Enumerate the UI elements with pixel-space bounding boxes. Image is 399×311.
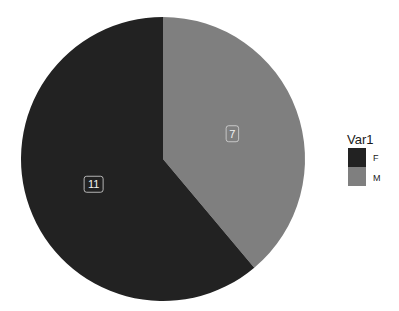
legend-label-m: M xyxy=(373,173,381,183)
svg-text:7: 7 xyxy=(229,128,235,140)
svg-text:11: 11 xyxy=(88,178,99,190)
legend-key-f xyxy=(348,148,366,167)
legend-title: Var1 xyxy=(347,132,374,147)
slice-label-m: 7 xyxy=(226,126,239,142)
legend-label-f: F xyxy=(373,153,379,163)
legend: Var1 F M xyxy=(347,132,381,186)
pie-slices xyxy=(21,17,305,301)
legend-key-m xyxy=(348,167,366,186)
pie-chart: 711 Var1 F M xyxy=(0,0,399,311)
slice-label-f: 11 xyxy=(84,176,103,192)
